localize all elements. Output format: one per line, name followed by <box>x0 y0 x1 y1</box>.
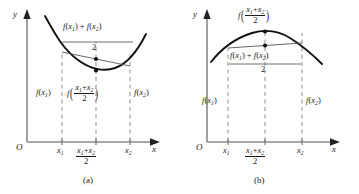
concave-curve-b <box>211 31 322 64</box>
curve-midpoint-dot-b <box>263 29 267 33</box>
chord-midpoint-dot-b <box>263 43 267 47</box>
y-axis-arrowhead-b <box>203 9 210 19</box>
panel-caption-b: (b) <box>254 175 265 185</box>
curve-midpoint-dot-a <box>94 68 98 72</box>
panel-b-plot <box>180 0 359 194</box>
panel-a-plot <box>0 0 179 194</box>
x-axis-arrowhead-b <box>330 138 340 145</box>
figure-root: y O x f(x1) + f(x2) 2 f(x1) f(x1+x22) f(… <box>0 0 359 194</box>
panel-caption-a: (a) <box>83 175 93 185</box>
y-axis-arrowhead-a <box>23 9 30 19</box>
chord-midpoint-dot-a <box>94 57 98 61</box>
x-axis-arrowhead-a <box>150 138 160 145</box>
panel-a-convex: y O x f(x1) + f(x2) 2 f(x1) f(x1+x22) f(… <box>0 0 179 194</box>
panel-b-concave: y O x f(x1+x22) f(x1) + f(x2) 2 f(x1) f(… <box>180 0 359 194</box>
